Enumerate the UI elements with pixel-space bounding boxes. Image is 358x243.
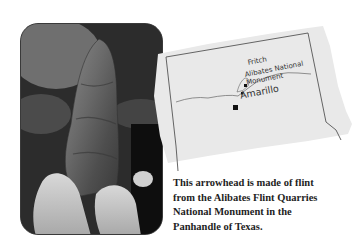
arrowhead-photo	[20, 23, 163, 235]
amarillo-marker	[233, 105, 238, 110]
panhandle-map: Fritch Alibates National Monument Amaril…	[148, 26, 358, 171]
arrowhead-illustration	[21, 24, 163, 235]
caption-line: National Monument in the	[173, 205, 358, 220]
caption-line: This arrowhead is made of flint	[173, 176, 358, 191]
caption-line: Panhandle of Texas.	[173, 220, 358, 235]
photo-caption: This arrowhead is made of flint from the…	[173, 176, 358, 234]
caption-line: from the Alibates Flint Quarries	[173, 191, 358, 206]
map-illustration	[148, 26, 358, 171]
